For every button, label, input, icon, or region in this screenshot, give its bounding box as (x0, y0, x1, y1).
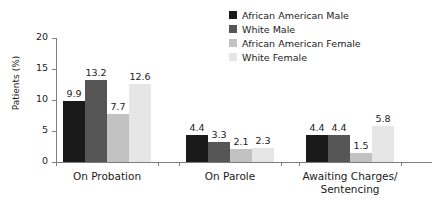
bar-column[interactable]: 7.7 (107, 38, 129, 162)
bar[interactable] (129, 84, 151, 162)
bar-value-label: 13.2 (85, 67, 106, 78)
bar-group-bars: 4.43.32.12.3 (186, 38, 274, 162)
plot-area: 05101520 9.913.27.712.6On Probation4.43.… (56, 38, 432, 162)
legend-item[interactable]: White Male (229, 23, 361, 35)
bar-column[interactable]: 5.8 (372, 38, 394, 162)
y-axis-tick: 20 (52, 38, 56, 39)
y-axis-tick-label: 20 (36, 31, 48, 42)
y-axis-tick-label: 10 (36, 93, 48, 104)
legend-swatch-icon (229, 25, 237, 33)
x-axis-line (56, 162, 432, 163)
bar[interactable] (350, 153, 372, 162)
legend-item-label: African American Male (242, 10, 349, 21)
bar-value-label: 7.7 (110, 101, 125, 112)
y-axis-title: Patients (%) (11, 53, 21, 113)
x-axis-tick (401, 162, 402, 166)
y-axis-tick: 5 (52, 131, 56, 132)
bar-column[interactable]: 1.5 (350, 38, 372, 162)
bar-group: 4.43.32.12.3 (186, 38, 274, 162)
bar-column[interactable]: 2.3 (252, 38, 274, 162)
bar-column[interactable]: 4.4 (306, 38, 328, 162)
bar[interactable] (63, 101, 85, 162)
y-axis-tick: 15 (52, 69, 56, 70)
bar-column[interactable]: 4.4 (328, 38, 350, 162)
chart-figure: African American MaleWhite MaleAfrican A… (0, 0, 437, 204)
bar-value-label: 2.1 (233, 136, 248, 147)
bar-column[interactable]: 3.3 (208, 38, 230, 162)
bar-column[interactable]: 2.1 (230, 38, 252, 162)
bar-group-bars: 4.44.41.55.8 (306, 38, 394, 162)
bar[interactable] (252, 148, 274, 162)
x-axis-category-label: Awaiting Charges/ Sentencing (276, 170, 424, 196)
y-axis-line (56, 38, 57, 162)
y-axis-tick-label: 5 (42, 124, 48, 135)
bar-column[interactable]: 4.4 (186, 38, 208, 162)
bar[interactable] (306, 135, 328, 162)
legend-swatch-icon (229, 11, 237, 19)
bar-group: 4.44.41.55.8 (306, 38, 394, 162)
bar-group: 9.913.27.712.6 (63, 38, 151, 162)
bar-value-label: 1.5 (353, 140, 368, 151)
y-axis-tick: 10 (52, 100, 56, 101)
bar-value-label: 3.3 (211, 129, 226, 140)
bar[interactable] (107, 114, 129, 162)
bar-column[interactable]: 9.9 (63, 38, 85, 162)
legend-item[interactable]: African American Male (229, 9, 361, 21)
x-axis-tick (158, 162, 159, 166)
bar-value-label: 5.8 (375, 113, 390, 124)
bar[interactable] (85, 80, 107, 162)
bar-value-label: 4.4 (189, 122, 204, 133)
bar[interactable] (328, 135, 350, 162)
bar-value-label: 12.6 (129, 71, 150, 82)
bar[interactable] (186, 135, 208, 162)
legend-item-label: White Male (242, 24, 295, 35)
y-axis-tick-label: 0 (42, 155, 48, 166)
bar-group-bars: 9.913.27.712.6 (63, 38, 151, 162)
bar-value-label: 2.3 (255, 135, 270, 146)
bar-column[interactable]: 12.6 (129, 38, 151, 162)
bar[interactable] (372, 126, 394, 162)
bar-value-label: 9.9 (66, 88, 81, 99)
x-axis-tick (281, 162, 282, 166)
bar-value-label: 4.4 (331, 122, 346, 133)
bar[interactable] (230, 149, 252, 162)
bar-value-label: 4.4 (309, 122, 324, 133)
x-axis-tick (56, 162, 57, 166)
y-axis-tick-label: 15 (36, 62, 48, 73)
x-axis-tick (179, 162, 180, 166)
bar[interactable] (208, 142, 230, 162)
bar-column[interactable]: 13.2 (85, 38, 107, 162)
x-axis-tick (299, 162, 300, 166)
